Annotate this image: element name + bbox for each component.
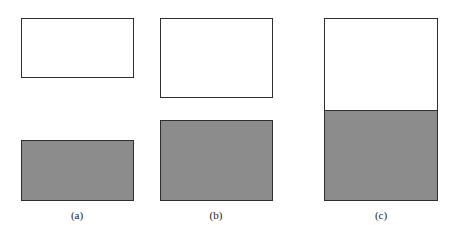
panel-a-top-rect	[21, 18, 134, 78]
panel-c-bottom-rect	[324, 110, 438, 201]
panel-b-top-rect	[160, 18, 273, 98]
panel-c-top-rect	[324, 18, 438, 111]
panel-a-label: (a)	[71, 209, 83, 221]
panel-b-bottom-rect	[160, 120, 273, 201]
panel-b-label: (b)	[210, 209, 223, 221]
panel-c-label: (c)	[375, 209, 387, 221]
panel-a-bottom-rect	[21, 140, 134, 201]
